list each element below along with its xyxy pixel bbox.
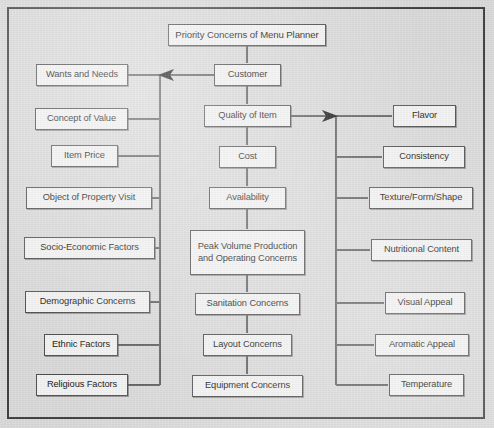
node-nutritional-content[interactable]: Nutritional Content bbox=[371, 239, 472, 261]
node-peak-volume-production[interactable]: Peak Volume Production and Operating Con… bbox=[190, 230, 305, 275]
node-temperature[interactable]: Temperature bbox=[389, 374, 464, 396]
node-layout-concerns[interactable]: Layout Concerns bbox=[203, 334, 292, 356]
node-concept-of-value[interactable]: Concept of Value bbox=[35, 108, 128, 130]
node-visual-appeal[interactable]: Visual Appeal bbox=[385, 292, 465, 314]
node-ethnic-factors[interactable]: Ethnic Factors bbox=[44, 334, 118, 356]
node-availability[interactable]: Availability bbox=[209, 187, 286, 209]
node-demographic-concerns[interactable]: Demographic Concerns bbox=[25, 291, 150, 313]
node-quality-of-item[interactable]: Quality of Item bbox=[204, 105, 291, 127]
node-religious-factors[interactable]: Religious Factors bbox=[36, 374, 128, 396]
node-texture-form-shape[interactable]: Texture/Form/Shape bbox=[369, 187, 473, 209]
diagram-canvas: Priority Concerns of Menu Planner Custom… bbox=[0, 0, 494, 428]
node-equipment-concerns[interactable]: Equipment Concerns bbox=[192, 375, 303, 397]
node-sanitation-concerns[interactable]: Sanitation Concerns bbox=[195, 293, 300, 315]
node-cost[interactable]: Cost bbox=[219, 146, 276, 168]
node-socio-economic-factors[interactable]: Socio-Economic Factors bbox=[24, 237, 155, 259]
node-customer[interactable]: Customer bbox=[214, 64, 281, 86]
node-consistency[interactable]: Consistency bbox=[383, 146, 465, 168]
node-root[interactable]: Priority Concerns of Menu Planner bbox=[168, 24, 326, 46]
node-flavor[interactable]: Flavor bbox=[393, 105, 456, 127]
node-item-price[interactable]: Item Price bbox=[51, 145, 118, 167]
node-wants-and-needs[interactable]: Wants and Needs bbox=[36, 64, 128, 86]
node-object-of-property-visit[interactable]: Object of Property Visit bbox=[26, 187, 152, 209]
node-aromatic-appeal[interactable]: Aromatic Appeal bbox=[375, 334, 469, 356]
